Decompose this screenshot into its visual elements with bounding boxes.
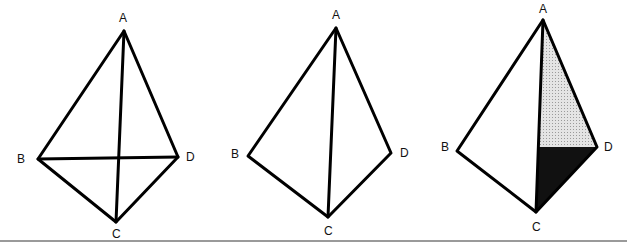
fig2-outline (248, 28, 391, 217)
fig3-label-b: B (441, 140, 449, 154)
figure-1 (38, 31, 178, 222)
fig3-label-d: D (604, 140, 613, 154)
fig2-edge-ac (328, 28, 336, 217)
fig2-label-b: B (231, 147, 239, 161)
fig3-label-c: C (532, 220, 541, 234)
fig3-label-a: A (539, 2, 547, 16)
diagram-canvas: A B D C A B D C A B D C (0, 0, 627, 243)
fig1-label-c: C (112, 227, 121, 241)
fig1-edge-bd (38, 157, 178, 159)
fig1-label-a: A (119, 11, 127, 25)
fig1-outline (38, 31, 178, 222)
fig1-edge-ac (116, 31, 124, 222)
fig2-label-c: C (324, 224, 333, 238)
fig2-label-d: D (400, 146, 409, 160)
fig2-label-a: A (332, 8, 340, 22)
figure-2 (248, 28, 391, 217)
fig1-label-d: D (186, 150, 195, 164)
fig1-label-b: B (17, 152, 25, 166)
tetrahedron-diagrams: A B D C A B D C A B D C (0, 0, 627, 243)
